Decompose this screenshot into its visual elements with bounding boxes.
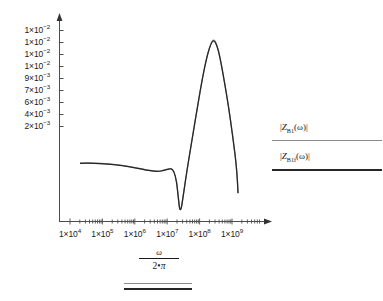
x-axis-title: ω 2•π (127, 248, 191, 272)
legend-line-zb1f (272, 169, 382, 171)
legend-label-zb1: |ZB1(ω)| (280, 122, 308, 132)
xaxis-legend-swatch-2 (124, 288, 192, 290)
x-axis-title-numerator: ω (127, 248, 191, 258)
y-axis-ticks (60, 31, 64, 127)
y-tick-label: 1×10−2 (6, 37, 50, 47)
y-tick-label: 1×10−2 (6, 61, 50, 71)
y-tick-label: 6×10−3 (6, 97, 50, 107)
mathcad-plot-figure: 1×10−2 1×10−2 1×10−2 1×10−2 9×10−3 7×10−… (0, 0, 383, 301)
x-axis-title-denominator: 2•π (127, 259, 191, 272)
y-tick-label: 9×10−3 (6, 73, 50, 83)
y-axis (57, 13, 63, 222)
y-tick-label: 4×10−3 (6, 109, 50, 119)
data-curve-zb1 (80, 40, 238, 209)
data-curve-zb1f (80, 41, 238, 210)
y-tick-label: 2×10−3 (6, 121, 50, 131)
x-tick-label: 1×109 (212, 229, 252, 239)
plot-canvas (0, 0, 383, 301)
y-tick-label: 1×10−2 (6, 25, 50, 35)
legend-label-zb1f: |ZB1f(ω)| (280, 151, 310, 161)
legend-line-zb1 (272, 140, 382, 141)
xaxis-legend-swatch-1 (124, 283, 192, 284)
y-tick-label: 1×10−2 (6, 49, 50, 59)
y-tick-label: 7×10−3 (6, 85, 50, 95)
